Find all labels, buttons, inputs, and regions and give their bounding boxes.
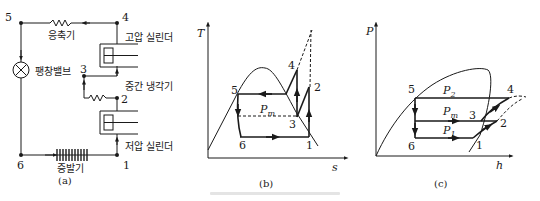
ts-point-2: 2 [314, 82, 321, 93]
pm-label: Pm [443, 106, 458, 121]
ph-point-4: 4 [507, 84, 514, 95]
ts-point-4: 4 [288, 60, 295, 71]
ph-point-3: 3 [469, 110, 476, 121]
expansion-valve-label: 팽창밸브 [35, 66, 71, 77]
ts-point-6: 6 [239, 140, 246, 151]
intercooler-coil-icon [89, 95, 106, 101]
low-pressure-cylinder-icon [100, 98, 138, 134]
p1-label: P1 [443, 125, 456, 140]
ph-point-2: 2 [500, 118, 507, 129]
high-pressure-cylinder-icon [100, 23, 138, 67]
node-4-label: 4 [122, 12, 129, 23]
node-2-label: 2 [121, 94, 128, 105]
p2-label: P2 [443, 85, 456, 100]
panel-a-caption: (a) [58, 175, 72, 186]
ts-point-1: 1 [306, 140, 313, 151]
panel-c-caption: (c) [434, 178, 447, 189]
node-3-label: 3 [80, 64, 87, 75]
ph-point-1: 1 [476, 140, 483, 151]
node-5-label: 5 [5, 12, 12, 23]
evaporator-label: 증발기 [57, 163, 84, 174]
t-axis-label: T [197, 28, 204, 39]
p-axis-label: P [366, 26, 373, 37]
schematic-panel [13, 20, 138, 161]
low-pressure-cylinder-label: 저압 실린더 [125, 141, 173, 152]
ph-point-5: 5 [408, 84, 415, 95]
ts-point-3: 3 [289, 119, 296, 130]
high-pressure-cylinder-label: 고압 실린더 [125, 32, 173, 43]
node-6-label: 6 [17, 160, 24, 171]
ts-pm-label: Pm [260, 104, 275, 119]
h-axis-label: h [496, 160, 503, 171]
ts-point-5: 5 [231, 85, 238, 96]
condenser-label: 응축기 [48, 30, 75, 41]
ts-diagram [208, 24, 346, 158]
condenser-coil-icon [50, 20, 71, 26]
ph-point-6: 6 [408, 141, 415, 152]
s-axis-label: s [332, 162, 338, 173]
node-1-label: 1 [123, 160, 130, 171]
panel-b-caption: (b) [259, 178, 273, 189]
faint-figure-caption [210, 192, 340, 195]
intercooler-label: 중간 냉각기 [125, 81, 173, 92]
